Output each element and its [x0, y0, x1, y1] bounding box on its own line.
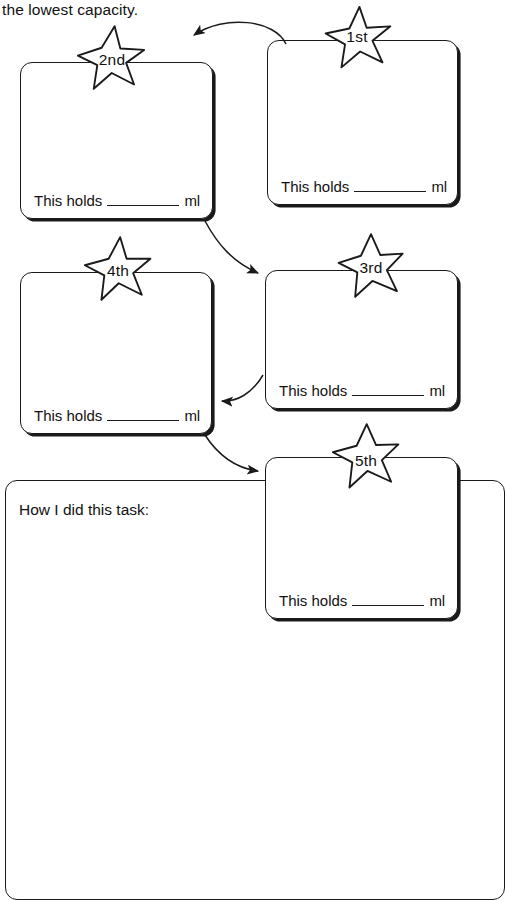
holds-line: This holds ml — [34, 407, 200, 424]
holds-blank-input[interactable] — [352, 382, 424, 396]
holds-blank-input[interactable] — [352, 592, 424, 606]
holds-prefix: This holds — [281, 178, 349, 195]
holds-blank-input[interactable] — [354, 178, 426, 192]
holds-prefix: This holds — [34, 192, 102, 209]
arrow-2nd-to-3rd — [205, 221, 258, 273]
holds-line: This holds ml — [34, 192, 200, 209]
capacity-box-4th[interactable]: This holds ml — [20, 272, 212, 434]
capacity-box-2nd[interactable]: This holds ml — [20, 62, 213, 219]
holds-suffix: ml — [429, 382, 445, 399]
holds-suffix: ml — [429, 592, 445, 609]
holds-line: This holds ml — [281, 178, 447, 195]
holds-line: This holds ml — [279, 382, 445, 399]
holds-prefix: This holds — [279, 382, 347, 399]
arrow-3rd-to-4th — [222, 375, 263, 401]
holds-prefix: This holds — [34, 407, 102, 424]
instruction-text: the lowest capacity. — [2, 0, 138, 19]
holds-blank-input[interactable] — [107, 192, 179, 206]
reflection-panel-label: How I did this task: — [19, 501, 149, 519]
holds-prefix: This holds — [279, 592, 347, 609]
holds-suffix: ml — [184, 192, 200, 209]
arrow-4th-to-5th — [205, 435, 258, 471]
capacity-box-3rd[interactable]: This holds ml — [265, 270, 458, 409]
holds-suffix: ml — [184, 407, 200, 424]
capacity-box-1st[interactable]: This holds ml — [267, 40, 458, 205]
holds-line: This holds ml — [279, 592, 445, 609]
holds-blank-input[interactable] — [107, 407, 179, 421]
capacity-box-5th[interactable]: This holds ml — [265, 457, 458, 619]
holds-suffix: ml — [431, 178, 447, 195]
